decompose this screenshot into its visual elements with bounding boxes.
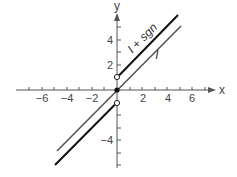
y-axis: 4 2 −4 y <box>100 0 121 168</box>
x-tick-label: 4 <box>165 92 171 104</box>
open-point-lower <box>114 100 119 105</box>
open-point-upper <box>114 74 119 79</box>
x-tick-label: −4 <box>61 92 74 104</box>
x-tick-label: 6 <box>189 92 195 104</box>
y-tick-label: 2 <box>107 59 113 71</box>
y-axis-arrow-icon <box>114 13 120 21</box>
x-tick-label: −6 <box>36 92 49 104</box>
y-tick-label: −4 <box>100 134 113 146</box>
function-plot: −6 −4 −2 2 4 6 x 4 2 −4 y I <box>0 0 237 177</box>
x-tick-label: −2 <box>86 92 99 104</box>
x-axis-arrow-icon <box>208 87 216 93</box>
x-axis-label: x <box>219 83 225 97</box>
series-i-label: I <box>155 48 159 62</box>
y-tick-label: 4 <box>107 34 113 46</box>
y-axis-label: y <box>114 0 120 13</box>
filled-point-origin <box>114 87 119 92</box>
y-ticks <box>117 27 121 165</box>
x-tick-label: 2 <box>140 92 146 104</box>
